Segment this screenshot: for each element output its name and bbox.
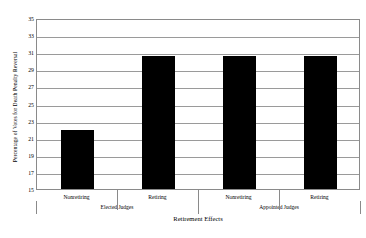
x-group-separator <box>198 201 199 214</box>
y-tick-label: 23 <box>14 119 34 125</box>
bar-series <box>37 20 359 189</box>
y-tick-label: 27 <box>14 84 34 90</box>
bar <box>61 130 94 189</box>
x-tick-label: Nonretiring <box>199 193 279 201</box>
x-tick-label: Nonretiring <box>37 193 117 201</box>
bar <box>223 56 256 189</box>
x-group-mark <box>279 201 280 210</box>
y-tick-label: 35 <box>14 16 34 22</box>
y-tick-label: 29 <box>14 67 34 73</box>
y-tick-label: 31 <box>14 50 34 56</box>
plot-area <box>36 19 360 190</box>
x-tick-mark <box>279 190 280 201</box>
y-tick-label: 17 <box>14 170 34 176</box>
x-tick-mark <box>198 190 199 201</box>
x-tick-label: Retiring <box>118 193 198 201</box>
y-tick-label: 33 <box>14 33 34 39</box>
bar-chart-figure: Percentage of Votes for Death Penalty Re… <box>0 0 366 238</box>
y-tick-label: 25 <box>14 102 34 108</box>
y-tick-label: 15 <box>14 187 34 193</box>
bar <box>142 56 175 189</box>
x-axis: NonretiringRetiringNonretiringRetiring E… <box>36 190 360 238</box>
x-tick-label: Retiring <box>280 193 360 201</box>
x-tick-mark <box>117 190 118 201</box>
y-tick-label: 19 <box>14 153 34 159</box>
x-axis-title: Retirement Effects <box>36 214 360 223</box>
x-group-mark <box>117 201 118 210</box>
y-axis-tick-labels: 3533312927252321191715 <box>14 19 34 190</box>
y-tick-label: 21 <box>14 136 34 142</box>
x-group-separator <box>360 201 361 214</box>
bar <box>304 56 337 189</box>
x-group-separator <box>36 201 37 214</box>
